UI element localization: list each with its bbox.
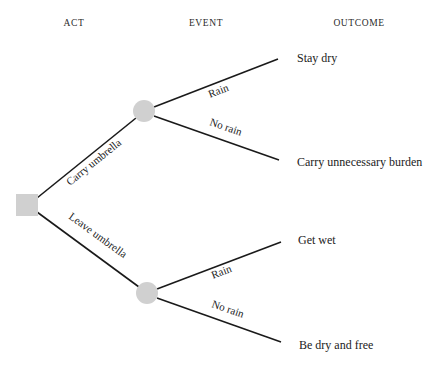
decision-tree-diagram: ACT EVENT OUTCOME Carry umbrella Leave u… xyxy=(0,0,446,367)
label-carry-umbrella: Carry umbrella xyxy=(64,136,124,187)
decision-node-square xyxy=(16,194,38,216)
label-carry-rain: Rain xyxy=(206,81,230,100)
label-leave-no-rain: No rain xyxy=(210,298,246,320)
outcome-carry-burden: Carry unnecessary burden xyxy=(297,155,422,170)
outcome-stay-dry: Stay dry xyxy=(297,51,337,66)
outcome-be-dry-free: Be dry and free xyxy=(299,338,373,353)
label-leave-rain: Rain xyxy=(209,262,233,281)
branch-carry-rain xyxy=(154,59,278,107)
label-leave-umbrella: Leave umbrella xyxy=(67,210,130,260)
label-carry-no-rain: No rain xyxy=(208,116,244,138)
tree-graphic: Carry umbrella Leave umbrella Rain No ra… xyxy=(0,0,446,367)
chance-node-leave xyxy=(136,282,158,304)
outcome-get-wet: Get wet xyxy=(298,233,336,248)
chance-node-carry xyxy=(133,100,155,122)
branch-carry-umbrella xyxy=(37,118,136,198)
